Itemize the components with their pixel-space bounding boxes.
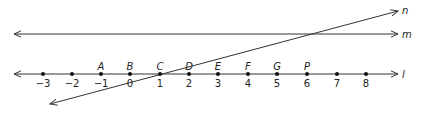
tick-value: 7: [334, 78, 340, 89]
point-label: G: [273, 61, 281, 72]
point-dot: [305, 72, 309, 76]
point-dot: [128, 72, 132, 76]
point-dot: [99, 72, 103, 76]
point-label: A: [97, 61, 105, 72]
number-line-points: −3−2−1A0B1C2D3E4F5G6P78: [36, 61, 370, 89]
point-label: B: [127, 61, 134, 72]
tick-value: 1: [157, 78, 163, 89]
point-dot: [335, 72, 339, 76]
tick-value: 8: [363, 78, 369, 89]
point-label: E: [215, 61, 222, 72]
point-label: C: [157, 61, 164, 72]
tick-value: −3: [36, 78, 51, 89]
point-dot: [364, 72, 368, 76]
point-dot: [187, 72, 191, 76]
tick-value: −1: [94, 78, 109, 89]
tick-value: 4: [245, 78, 251, 89]
tick-value: 0: [127, 78, 133, 89]
geometry-diagram: m l n −3−2−1A0B1C2D3E4F5G6P78: [0, 0, 421, 114]
point-label: P: [304, 61, 311, 72]
line-l-label: l: [402, 69, 405, 80]
tick-value: −2: [65, 78, 80, 89]
tick-value: 6: [304, 78, 310, 89]
line-n-label: n: [402, 5, 408, 16]
point-dot: [246, 72, 250, 76]
line-m-label: m: [402, 29, 412, 40]
tick-value: 5: [274, 78, 280, 89]
point-dot: [216, 72, 220, 76]
point-dot: [70, 72, 74, 76]
line-n: [50, 11, 398, 104]
tick-value: 3: [215, 78, 221, 89]
tick-value: 2: [186, 78, 192, 89]
point-label: D: [185, 61, 193, 72]
point-dot: [158, 72, 162, 76]
point-dot: [41, 72, 45, 76]
point-label: F: [245, 61, 251, 72]
point-dot: [275, 72, 279, 76]
